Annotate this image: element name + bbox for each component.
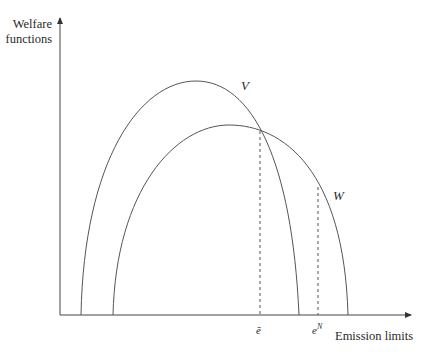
- x-axis-label: Emission limits: [335, 329, 413, 343]
- curve-v-label: V: [241, 78, 251, 93]
- welfare-diagram: Welfare functions Emission limits V W ẽ …: [0, 0, 431, 357]
- curve-v: [81, 81, 299, 315]
- y-axis-label-line1: Welfare: [13, 17, 53, 31]
- curve-w: [113, 125, 348, 315]
- tick-e-n: eN: [312, 322, 323, 336]
- y-axis-label-line2: functions: [5, 32, 52, 46]
- curve-w-label: W: [333, 188, 345, 203]
- tick-e-tilde: ẽ: [256, 324, 262, 336]
- tick-e-n-sup: N: [316, 322, 323, 331]
